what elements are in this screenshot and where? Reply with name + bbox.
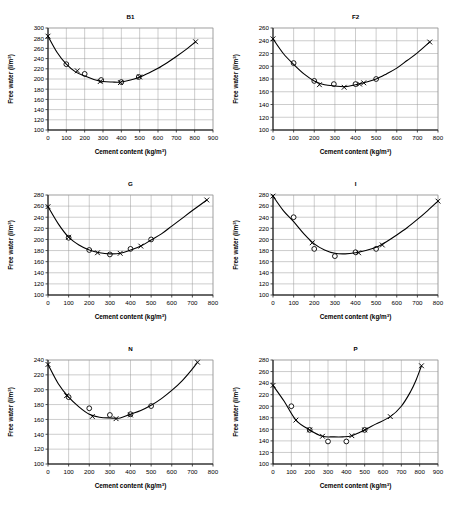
x-axis-label: Cement content (kg/m3) xyxy=(95,482,167,490)
y-tick-label: 260 xyxy=(259,368,270,375)
x-axis-label: Cement content (kg/m3) xyxy=(320,148,392,156)
y-tick-label: 160 xyxy=(259,88,270,95)
x-tick-label: 100 xyxy=(63,299,74,306)
x-tick-label: 400 xyxy=(341,468,352,475)
x-tick-label: 600 xyxy=(392,299,403,306)
x-tick-label: 300 xyxy=(98,134,109,141)
x-axis-label: Cement content (kg/m3) xyxy=(95,313,167,321)
y-tick-label: 180 xyxy=(259,414,270,421)
y-tick-label: 240 xyxy=(34,214,45,221)
data-point-circle xyxy=(87,406,92,411)
chart-title: P xyxy=(353,345,357,352)
chart-title: F2 xyxy=(352,13,360,20)
x-tick-label: 100 xyxy=(288,299,299,306)
y-tick-label: 240 xyxy=(34,55,45,62)
x-tick-label: 700 xyxy=(187,468,198,475)
x-tick-label: 300 xyxy=(105,468,116,475)
chart-title: N xyxy=(128,345,133,352)
y-tick-label: 100 xyxy=(259,460,270,467)
data-point-circle xyxy=(312,246,317,251)
x-tick-label: 300 xyxy=(105,299,116,306)
y-tick-label: 120 xyxy=(34,445,45,452)
y-tick-label: 220 xyxy=(34,65,45,72)
y-tick-label: 280 xyxy=(34,191,45,198)
x-tick-label: 600 xyxy=(167,299,178,306)
x-tick-label: 0 xyxy=(271,134,275,141)
y-axis-label: Free water (l/m3) xyxy=(232,387,240,437)
x-tick-label: 200 xyxy=(84,299,95,306)
x-tick-label: 100 xyxy=(63,468,74,475)
x-tick-label: 800 xyxy=(433,134,444,141)
x-tick-label: 300 xyxy=(330,134,341,141)
y-tick-label: 160 xyxy=(34,258,45,265)
x-tick-label: 100 xyxy=(61,134,72,141)
x-tick-label: 0 xyxy=(46,299,50,306)
x-tick-label: 300 xyxy=(330,299,341,306)
x-tick-label: 300 xyxy=(323,468,334,475)
y-tick-label: 220 xyxy=(259,391,270,398)
x-axis-label: Cement content (kg/m3) xyxy=(320,313,392,321)
y-tick-label: 260 xyxy=(34,202,45,209)
x-tick-label: 600 xyxy=(167,468,178,475)
chart-panel-g: G100120140160180200220240260280010020030… xyxy=(0,175,225,340)
x-tick-label: 900 xyxy=(208,134,219,141)
y-tick-label: 220 xyxy=(259,50,270,57)
y-tick-label: 280 xyxy=(259,191,270,198)
x-axis-label: Cement content (kg/m3) xyxy=(320,482,392,490)
data-point-circle xyxy=(326,439,331,444)
data-curve xyxy=(48,36,196,82)
chart-panel-n: N100120140160180200220240010020030040050… xyxy=(0,340,225,509)
y-tick-label: 100 xyxy=(34,460,45,467)
plot-frame xyxy=(273,360,438,464)
x-tick-label: 400 xyxy=(350,299,361,306)
data-point-circle xyxy=(332,254,337,259)
x-tick-label: 500 xyxy=(360,468,371,475)
data-curve xyxy=(48,362,198,418)
y-tick-label: 180 xyxy=(34,401,45,408)
x-tick-label: 400 xyxy=(125,299,136,306)
y-tick-label: 100 xyxy=(259,291,270,298)
x-tick-label: 0 xyxy=(271,468,275,475)
x-tick-label: 700 xyxy=(412,299,423,306)
y-tick-label: 120 xyxy=(259,449,270,456)
x-tick-label: 200 xyxy=(305,468,316,475)
x-tick-label: 500 xyxy=(371,134,382,141)
y-tick-label: 160 xyxy=(259,426,270,433)
y-tick-label: 200 xyxy=(34,386,45,393)
y-tick-label: 100 xyxy=(259,126,270,133)
chart-panel-i: I100120140160180200220240260280010020030… xyxy=(225,175,449,340)
y-tick-label: 120 xyxy=(259,114,270,121)
y-tick-label: 140 xyxy=(34,106,45,113)
data-curve xyxy=(48,200,207,254)
y-tick-label: 220 xyxy=(34,371,45,378)
y-tick-label: 240 xyxy=(259,214,270,221)
y-tick-label: 300 xyxy=(34,24,45,31)
chart-panel-b1: B110012014016018020022024026028030001002… xyxy=(0,0,225,175)
y-tick-label: 120 xyxy=(259,280,270,287)
x-tick-label: 200 xyxy=(309,134,320,141)
x-tick-label: 100 xyxy=(286,468,297,475)
y-tick-label: 160 xyxy=(34,416,45,423)
y-axis-label: Free water (l/m3) xyxy=(232,220,240,270)
y-tick-label: 140 xyxy=(34,431,45,438)
x-tick-label: 200 xyxy=(80,134,91,141)
y-tick-label: 240 xyxy=(259,37,270,44)
y-axis-label: Free water (l/m3) xyxy=(7,220,15,270)
y-tick-label: 200 xyxy=(34,236,45,243)
y-tick-label: 240 xyxy=(34,356,45,363)
x-tick-label: 100 xyxy=(288,134,299,141)
y-tick-label: 100 xyxy=(34,291,45,298)
x-tick-label: 800 xyxy=(208,299,219,306)
y-tick-label: 120 xyxy=(34,116,45,123)
chart-panel-f2: F210012014016018020022024026001002003004… xyxy=(225,0,449,175)
y-axis-label: Free water (l/m3) xyxy=(7,387,15,437)
x-tick-label: 800 xyxy=(190,134,201,141)
y-tick-label: 260 xyxy=(34,45,45,52)
x-axis-label: Cement content (kg/m3) xyxy=(95,148,167,156)
x-tick-label: 700 xyxy=(171,134,182,141)
data-point-circle xyxy=(291,215,296,220)
y-tick-label: 220 xyxy=(259,225,270,232)
chart-title: B1 xyxy=(127,13,135,20)
chart-panel-p: P100120140160180200220240260280010020030… xyxy=(225,340,449,509)
y-tick-label: 200 xyxy=(34,75,45,82)
